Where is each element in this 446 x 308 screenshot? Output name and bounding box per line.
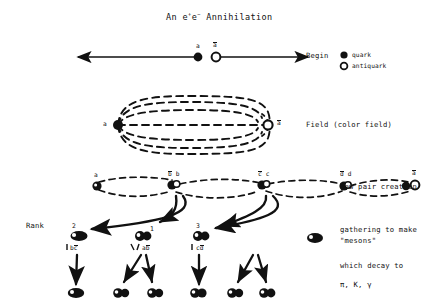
field-stage-label: Field (color field)	[306, 121, 392, 128]
gathering-arrows	[92, 196, 278, 229]
legend-quark-label: quark	[352, 52, 371, 58]
legend-antiquark-label: antiquark	[352, 63, 386, 69]
field-quark-marker	[113, 120, 123, 130]
meson-label-cd: cd	[196, 245, 204, 251]
legend-antiquark-icon	[341, 63, 348, 70]
meson-gathering-line-1: gathering to make	[340, 226, 417, 233]
begin-quark-marker	[194, 53, 203, 62]
meson-legend-glyph	[307, 233, 323, 243]
pair-marker-c: c c	[258, 171, 269, 177]
meson-label-ab: ab	[142, 245, 150, 251]
meson-tick-marks	[67, 244, 192, 250]
figure-canvas: An e+e− Annihilation	[0, 0, 446, 308]
decay-line-2: π, K, γ	[340, 281, 372, 288]
pair-marker-a: a	[94, 172, 98, 178]
rank-number-2: 2	[72, 223, 76, 229]
pair-creation-stage-label: New pair creation	[340, 183, 417, 190]
meson-rank-2	[71, 231, 88, 241]
begin-antiquark-marker	[212, 53, 221, 62]
field-antiquark-label: a	[277, 120, 281, 126]
color-field-loops	[118, 96, 270, 154]
field-quark-label: a	[103, 121, 107, 127]
legend-quark-icon	[340, 51, 347, 58]
pair-marker-abar: a	[412, 170, 416, 176]
pair-marker-d: d d	[340, 171, 351, 177]
rank-stage-label: Rank	[26, 222, 44, 229]
begin-quark-label: a	[196, 43, 200, 49]
pair-marker-b: b b	[168, 171, 179, 177]
rank-number-3: 3	[196, 223, 200, 229]
meson-rank-1	[135, 231, 151, 241]
decay-line-1: which decay to	[340, 262, 403, 269]
begin-antiquark-label: a	[213, 42, 217, 48]
meson-label-bc: bc	[70, 245, 78, 251]
decay-products	[68, 288, 276, 298]
decay-arrows	[76, 255, 266, 284]
field-antiquark-marker	[263, 120, 272, 129]
meson-gathering-line-2: "mesons"	[340, 237, 376, 244]
meson-rank-3	[193, 231, 209, 241]
rank-number-1: 1	[150, 226, 154, 232]
begin-stage-label: Begin	[306, 52, 329, 59]
